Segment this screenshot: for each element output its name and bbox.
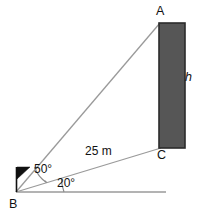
- building-rectangle: [159, 23, 185, 148]
- vertex-label-c: C: [157, 149, 166, 162]
- vertex-label-a: A: [156, 5, 164, 18]
- distance-label-25m: 25 m: [85, 145, 112, 157]
- geometry-diagram: A B C h 25 m 50° 20°: [0, 0, 206, 221]
- angle-label-20: 20°: [57, 177, 75, 189]
- diagram-canvas: [0, 0, 206, 221]
- vertex-label-b: B: [9, 198, 17, 211]
- building-height-label: h: [185, 71, 192, 84]
- angle-label-50: 50°: [34, 163, 52, 175]
